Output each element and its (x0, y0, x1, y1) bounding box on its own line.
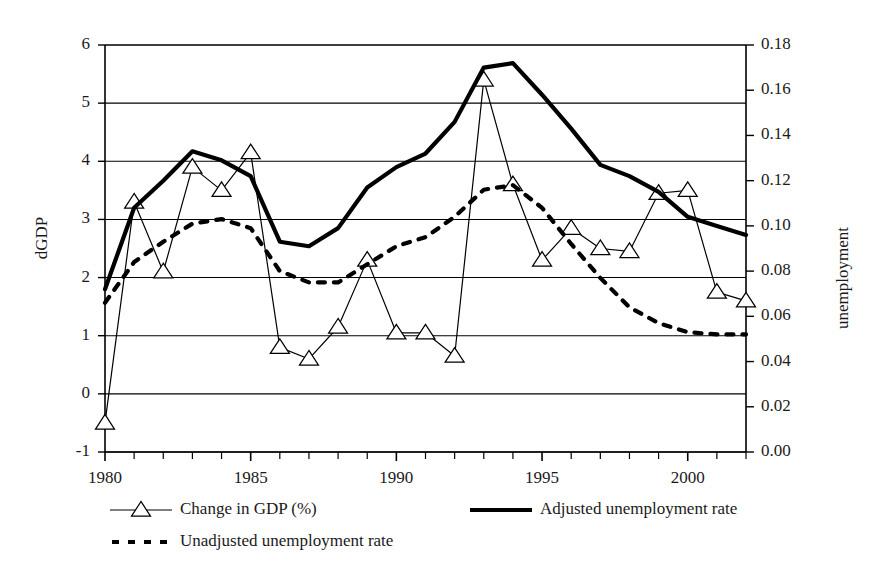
series-marker-triangle (154, 263, 173, 278)
gridlines-group (105, 45, 746, 452)
y-axis-right-tick-label: 0.16 (761, 79, 821, 99)
y-axis-right-tick-label: 0.04 (761, 351, 821, 371)
series-marker-triangle (212, 182, 231, 197)
x-axis-tick-label: 1995 (512, 468, 572, 488)
series-marker-triangle (299, 350, 318, 365)
y-axis-left-title: dGDP (32, 178, 52, 298)
series-marker-triangle (562, 220, 581, 235)
series-marker-triangle (591, 240, 610, 255)
series-line-1 (105, 63, 746, 289)
legend-label: Adjusted unemployment rate (540, 499, 737, 519)
axis-frame (105, 45, 746, 452)
series-marker-triangle (533, 252, 552, 267)
x-axis-tick-label: 1980 (75, 468, 135, 488)
y-axis-left-tick-label: 1 (50, 325, 90, 345)
series-marker-triangle (707, 284, 726, 299)
y-axis-right-tick-label: 0.12 (761, 170, 821, 190)
data-series-group (96, 63, 756, 429)
series-line-2 (105, 185, 746, 334)
series-marker-triangle (329, 318, 348, 333)
legend-label: Change in GDP (%) (180, 499, 317, 519)
x-axis-tick-label: 1990 (366, 468, 426, 488)
series-marker-triangle (737, 292, 756, 307)
y-axis-right-tick-label: 0.14 (761, 124, 821, 144)
legend-label: Unadjusted unemployment rate (180, 531, 393, 551)
plot-area (0, 0, 869, 577)
x-axis-tick-label: 1985 (221, 468, 281, 488)
x-axis-tick-label: 2000 (658, 468, 718, 488)
y-axis-left-tick-label: 4 (50, 150, 90, 170)
y-axis-right-title: unemployment (833, 183, 853, 373)
y-axis-left-tick-label: 3 (50, 208, 90, 228)
y-axis-right-tick-label: 0.10 (761, 215, 821, 235)
series-marker-triangle (445, 348, 464, 363)
y-axis-right-tick-label: 0.18 (761, 34, 821, 54)
y-axis-right-tick-label: 0.08 (761, 260, 821, 280)
series-line-0 (105, 80, 746, 423)
y-axis-right-tick-label: 0.02 (761, 396, 821, 416)
series-marker-triangle (96, 414, 115, 429)
tick-marks-group (98, 45, 754, 461)
y-axis-left-tick-label: 5 (50, 92, 90, 112)
series-marker-triangle (241, 144, 260, 159)
series-marker-triangle (387, 324, 406, 339)
y-axis-right-tick-label: 0.00 (761, 441, 821, 461)
y-axis-left-tick-label: 6 (50, 34, 90, 54)
chart-figure: dGDP unemployment -10123456 0.000.020.04… (0, 0, 869, 577)
series-marker-triangle (678, 182, 697, 197)
legend-marker-triangle (132, 502, 151, 517)
series-marker-triangle (416, 324, 435, 339)
y-axis-right-tick-label: 0.06 (761, 305, 821, 325)
y-axis-left-tick-label: 0 (50, 383, 90, 403)
series-marker-triangle (270, 339, 289, 354)
y-axis-left-tick-label: -1 (50, 441, 90, 461)
y-axis-left-tick-label: 2 (50, 267, 90, 287)
